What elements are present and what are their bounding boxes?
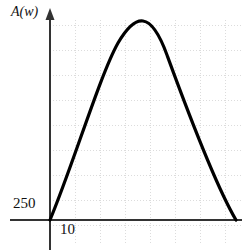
y-axis-tick-label-250: 250 bbox=[13, 196, 36, 211]
y-axis-label: A(w) bbox=[11, 5, 38, 19]
x-axis-tick-label-10: 10 bbox=[60, 222, 75, 237]
y-axis-arrow-icon bbox=[46, 8, 55, 20]
parabola-plot bbox=[0, 0, 242, 250]
graph-figure: A(w) 250 10 bbox=[0, 0, 242, 250]
